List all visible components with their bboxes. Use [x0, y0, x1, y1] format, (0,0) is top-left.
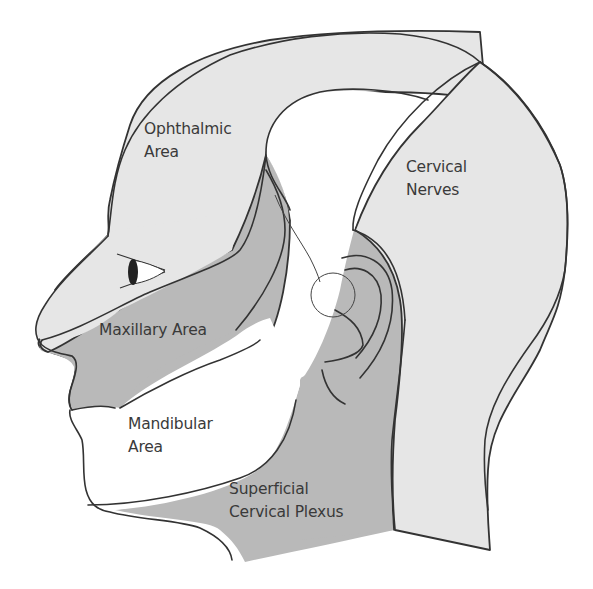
label-mandibular-area: Mandibular Area — [128, 413, 213, 459]
label-ophthalmic-area: Ophthalmic Area — [144, 118, 232, 164]
label-line: Maxillary Area — [99, 319, 207, 342]
label-maxillary-area: Maxillary Area — [99, 319, 207, 342]
label-line: Mandibular — [128, 413, 213, 436]
label-cervical-nerves: Cervical Nerves — [406, 156, 467, 202]
label-line: Cervical — [406, 156, 467, 179]
label-line: Cervical Plexus — [229, 501, 343, 524]
label-line: Superficial — [229, 478, 343, 501]
label-line: Area — [128, 436, 213, 459]
label-line: Nerves — [406, 179, 467, 202]
label-superficial-cervical-plexus: Superficial Cervical Plexus — [229, 478, 343, 524]
label-line: Ophthalmic — [144, 118, 232, 141]
label-line: Area — [144, 141, 232, 164]
head-nerve-diagram: Ophthalmic Area Cervical Nerves Maxillar… — [0, 0, 593, 589]
